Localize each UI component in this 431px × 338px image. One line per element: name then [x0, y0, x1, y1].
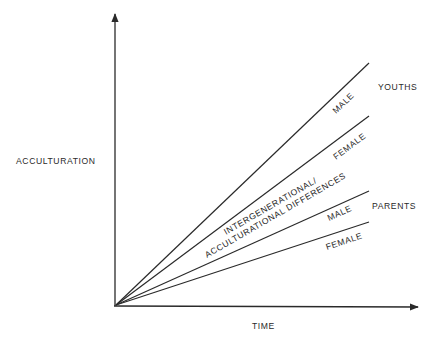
x-axis-label: TIME: [252, 321, 275, 331]
gap-label-line1: INTERGENERATIONAL/: [222, 175, 319, 236]
y-axis-label: ACCULTURATION: [16, 156, 96, 166]
line-label-youths-male: MALE: [330, 90, 356, 115]
group-label-parents: PARENTS: [372, 201, 416, 211]
line-label-parents-male: MALE: [326, 203, 354, 223]
line-label-parents-female: FEMALE: [325, 231, 364, 252]
x-axis: [114, 306, 418, 307]
line-label-youths-female: FEMALE: [331, 131, 367, 162]
group-label-youths: YOUTHS: [378, 82, 417, 92]
acculturation-diagram: ACCULTURATION TIME YOUTHS PARENTS MALE F…: [0, 0, 431, 338]
